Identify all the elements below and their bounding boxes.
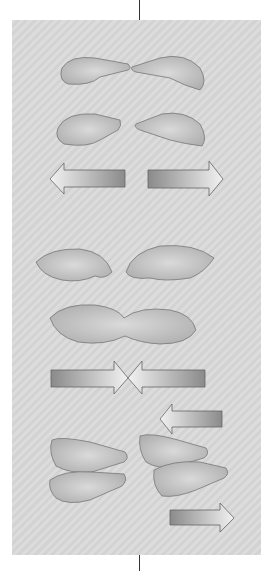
hand-left-3 <box>36 249 112 281</box>
illustration-canvas <box>0 0 275 571</box>
arrow-left-converge-icon <box>128 361 205 394</box>
arrow-left-icon <box>50 163 125 194</box>
arrow-right-slide-icon <box>170 503 234 532</box>
hand-right-bottom <box>154 462 228 497</box>
hand-right-2 <box>135 113 204 146</box>
hand-left-2 <box>57 114 121 146</box>
hand-right-3 <box>126 246 214 281</box>
hands-interlocked <box>50 305 196 344</box>
hand-left-1 <box>61 57 130 84</box>
hand-right-1 <box>132 56 205 90</box>
arrow-right-icon <box>148 161 223 196</box>
arrow-left-slide-icon <box>160 404 222 434</box>
hand-left-top <box>51 438 128 472</box>
arrow-right-converge-icon <box>51 361 128 394</box>
hand-left-bottom <box>50 472 126 503</box>
